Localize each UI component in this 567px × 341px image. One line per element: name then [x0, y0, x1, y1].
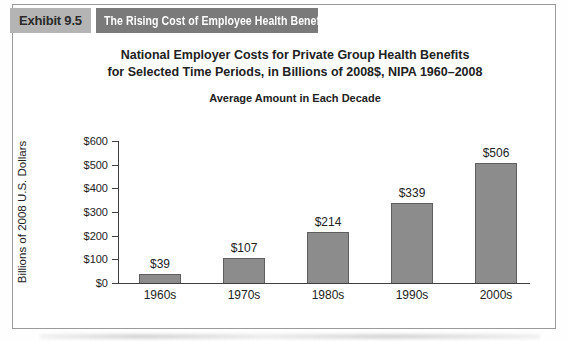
y-axis-tick-label: $500 [60, 159, 108, 171]
y-axis-tick-label: $100 [60, 253, 108, 265]
bar-1990s [391, 203, 433, 283]
bar-1980s [307, 232, 349, 283]
x-axis-category-label-1990s: 1990s [370, 288, 454, 302]
bar-value-label-1970s: $107 [202, 241, 286, 255]
exhibit-number-badge: Exhibit 9.5 [10, 8, 91, 33]
y-axis-tick-mark [112, 141, 118, 142]
x-axis-category-label-1960s: 1960s [118, 288, 202, 302]
exhibit-figure: Exhibit 9.5 The Rising Cost of Employee … [0, 0, 567, 341]
y-axis-tick-mark [112, 188, 118, 189]
exhibit-header: Exhibit 9.5 The Rising Cost of Employee … [10, 8, 318, 33]
y-axis-tick-label: $300 [60, 206, 108, 218]
y-axis-tick-mark [112, 236, 118, 237]
page-texture-artifact [40, 334, 540, 339]
bar-1970s [223, 258, 265, 283]
y-axis-tick-label: $600 [60, 135, 108, 147]
chart-title: National Employer Costs for Private Grou… [50, 47, 540, 81]
y-axis-tick-mark [112, 283, 118, 284]
exhibit-title-banner: The Rising Cost of Employee Health Benef… [96, 8, 318, 33]
bar-value-label-1980s: $214 [286, 215, 370, 229]
bar-value-label-2000s: $506 [454, 146, 538, 160]
y-axis-tick-label: $200 [60, 230, 108, 242]
chart-subtitle: Average Amount in Each Decade [50, 92, 540, 104]
x-axis-category-label-1970s: 1970s [202, 288, 286, 302]
chart-title-line1: National Employer Costs for Private Grou… [50, 47, 540, 64]
x-axis-category-label-2000s: 2000s [454, 288, 538, 302]
y-axis-tick-mark [112, 165, 118, 166]
x-axis-category-label-1980s: 1980s [286, 288, 370, 302]
y-axis-tick-mark [112, 212, 118, 213]
y-axis-tick-label: $400 [60, 182, 108, 194]
chart-title-line2: for Selected Time Periods, in Billions o… [50, 64, 540, 81]
bar-1960s [139, 274, 181, 283]
bar-value-label-1960s: $39 [118, 257, 202, 271]
y-axis-title: Billions of 2008 U.S. Dollars [16, 132, 30, 292]
y-axis-tick-label: $0 [60, 277, 108, 289]
exhibit-title-text: The Rising Cost of Employee Health Benef… [104, 8, 333, 33]
bar-2000s [475, 163, 517, 283]
bar-value-label-1990s: $339 [370, 186, 454, 200]
x-axis-line [118, 283, 530, 284]
